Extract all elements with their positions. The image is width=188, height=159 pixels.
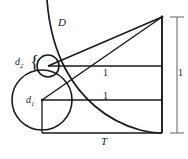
apex-point	[161, 16, 164, 19]
circle-label-d1: d1	[26, 95, 34, 108]
geometry-diagram: D d2 { d1 T 1 1 1	[0, 0, 188, 159]
baseline-label-T: T	[101, 136, 107, 147]
curve-label-D: D	[58, 17, 66, 28]
dimension-label-lower: 1	[103, 91, 108, 101]
dimension-label-right-total: 1	[178, 68, 183, 78]
circle-label-d1-subscript: 1	[31, 100, 34, 107]
d1-center-point	[41, 99, 43, 101]
circle-label-d2-subscript: 2	[20, 62, 23, 69]
circle-label-d2: d2	[15, 57, 23, 70]
brace-icon: {	[30, 52, 39, 71]
dimension-label-upper: 1	[103, 68, 108, 78]
diagram-canvas	[0, 0, 188, 159]
